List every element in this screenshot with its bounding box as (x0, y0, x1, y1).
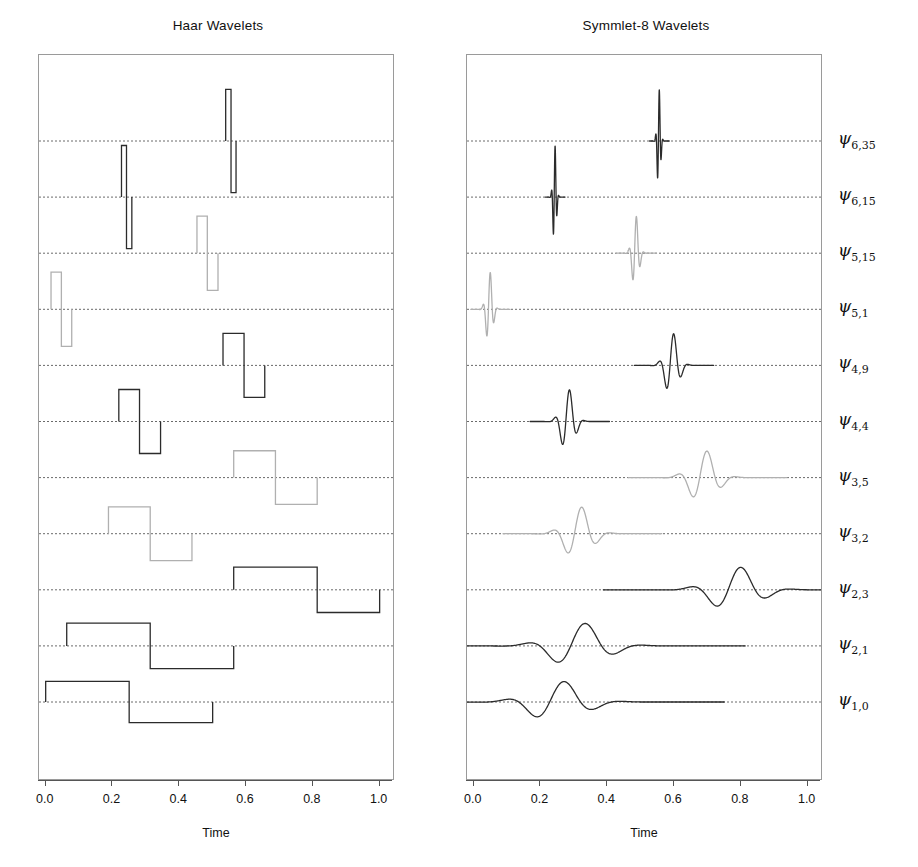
symmlet-wavelet-plot (467, 55, 821, 779)
x-axis-tick (111, 780, 112, 786)
wavelet-label-4-9: ψ4,9 (838, 353, 869, 376)
symmlet-wavelet-psi_2,1 (467, 623, 745, 662)
x-axis-title-symmlet: Time (630, 826, 657, 840)
x-axis-tick-label: 0.4 (598, 792, 615, 806)
haar-wavelet-psi_4,4 (119, 390, 161, 454)
wavelet-label-2-1: ψ2,1 (838, 633, 869, 656)
wavelet-label-6-15: ψ6,15 (838, 184, 876, 207)
x-axis-tick-label: 0.4 (170, 792, 187, 806)
symmlet-wavelet-psi_5,15 (617, 216, 657, 279)
x-axis-tick (473, 780, 474, 786)
plot-area-haar (38, 54, 394, 780)
symmlet-wavelet-psi_4,4 (530, 390, 609, 445)
wavelet-label-5-1: ψ5,1 (838, 297, 869, 320)
x-axis-tick-label: 0.0 (36, 792, 53, 806)
x-axis-tick-label: 1.0 (798, 792, 815, 806)
x-axis-tick (673, 780, 674, 786)
x-axis-tick (379, 780, 380, 786)
x-axis-tick (539, 780, 540, 786)
wavelet-label-3-5: ψ3,5 (838, 465, 869, 488)
x-axis-tick-label: 1.0 (370, 792, 387, 806)
symmlet-wavelet-psi_6,35 (650, 90, 670, 178)
wavelet-label-5-15: ψ5,15 (838, 240, 876, 263)
panel-title-haar: Haar Wavelets (0, 18, 436, 33)
wavelet-label-2-3: ψ2,3 (838, 577, 869, 600)
plot-area-symmlet (466, 54, 822, 780)
x-axis-tick (45, 780, 46, 786)
x-axis-tick-label: 0.2 (103, 792, 120, 806)
symmlet-wavelet-psi_5,1 (471, 273, 510, 336)
x-axis-tick-label: 0.6 (236, 792, 253, 806)
symmlet-wavelet-psi_1,0 (467, 682, 724, 717)
wavelet-row-labels: ψ6,35ψ6,15ψ5,15ψ5,1ψ4,9ψ4,4ψ3,5ψ3,2ψ2,3ψ… (838, 0, 918, 867)
x-axis-tick (178, 780, 179, 786)
wavelet-label-6-35: ψ6,35 (838, 128, 876, 151)
symmlet-wavelet-psi_4,9 (634, 334, 713, 389)
panel-haar-wavelets: Haar Wavelets 0.00.20.40.60.81.0 Time (0, 0, 436, 867)
x-axis-tick-label: 0.0 (464, 792, 481, 806)
x-axis-tick (312, 780, 313, 786)
haar-wavelet-plot (39, 55, 393, 779)
haar-wavelet-psi_4,9 (223, 333, 265, 397)
panel-title-symmlet: Symmlet-8 Wavelets (428, 18, 864, 33)
symmlet-wavelet-psi_2,3 (603, 567, 821, 606)
x-axis-tick-label: 0.8 (731, 792, 748, 806)
x-axis-title-haar: Time (202, 826, 229, 840)
x-axis-tick (245, 780, 246, 786)
wavelet-label-1-0: ψ1,0 (838, 689, 869, 712)
x-axis-tick-label: 0.8 (303, 792, 320, 806)
x-axis-tick-label: 0.6 (664, 792, 681, 806)
symmlet-wavelet-psi_6,15 (545, 146, 565, 234)
x-axis-tick (606, 780, 607, 786)
x-axis-line (466, 780, 820, 781)
x-axis-line (38, 780, 392, 781)
x-axis-tick (740, 780, 741, 786)
panel-symmlet-wavelets: Symmlet-8 Wavelets 0.00.20.40.60.81.0 Ti… (428, 0, 864, 867)
symmlet-wavelet-psi_3,5 (628, 451, 787, 497)
x-axis-tick (807, 780, 808, 786)
wavelet-label-3-2: ψ3,2 (838, 521, 869, 544)
x-axis-tick-label: 0.2 (531, 792, 548, 806)
wavelet-label-4-4: ψ4,4 (838, 409, 869, 432)
symmlet-wavelet-psi_3,2 (503, 507, 662, 553)
